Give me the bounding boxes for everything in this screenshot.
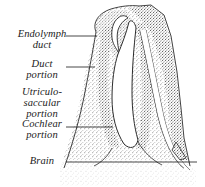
label-utriculo-saccular-portion: Utriculo- saccular portion bbox=[0, 86, 84, 119]
label-column: Endolymph duct Duct portion Utriculo- sa… bbox=[0, 0, 96, 187]
label-duct-portion: Duct portion bbox=[0, 58, 84, 80]
anatomical-figure: Endolymph duct Duct portion Utriculo- sa… bbox=[0, 0, 205, 187]
label-endolymph-duct: Endolymph duct bbox=[0, 28, 84, 50]
label-brain: Brain bbox=[0, 155, 84, 166]
label-cochlear-portion: Cochlear portion bbox=[0, 118, 84, 140]
